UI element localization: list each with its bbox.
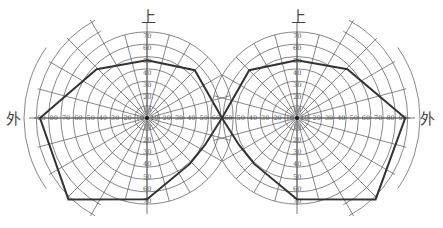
tick-label: 10 xyxy=(293,123,301,131)
tick-label: 60 xyxy=(74,114,82,122)
tick-label: 30 xyxy=(293,81,301,89)
tick-label: 50 xyxy=(350,114,358,122)
meridian xyxy=(236,120,295,179)
tick-label: 30 xyxy=(175,114,183,122)
tick-label: 10 xyxy=(143,106,151,114)
meridian xyxy=(222,75,294,117)
tick-label: 30 xyxy=(111,114,119,122)
meridian xyxy=(222,120,294,162)
tick-label: 10 xyxy=(300,114,308,122)
meridian xyxy=(214,119,294,141)
meridian xyxy=(67,120,145,198)
tick-label: 20 xyxy=(293,136,301,144)
meridian xyxy=(299,38,377,116)
tick-label: 60 xyxy=(143,44,151,52)
tick-label: 30 xyxy=(143,148,151,156)
tick-label: 60 xyxy=(143,185,151,193)
tick-label: 40 xyxy=(143,69,151,77)
tick-label: 20 xyxy=(273,114,281,122)
tick-label: 20 xyxy=(143,93,151,101)
tick-label: 30 xyxy=(325,114,333,122)
tick-label: 80 xyxy=(386,114,394,122)
tick-label: 10 xyxy=(286,114,294,122)
tick-label: 60 xyxy=(293,44,301,52)
outer-label-left: 外 xyxy=(6,110,21,128)
left-eye-perimetry: 1010202030304040505060607070101020203030… xyxy=(24,20,233,216)
top-label-left: 上 xyxy=(141,8,156,26)
tick-label: 50 xyxy=(237,114,245,122)
tick-label: 10 xyxy=(136,114,144,122)
outer-label-right: 外 xyxy=(420,110,435,128)
fixation-point xyxy=(295,116,299,120)
meridian xyxy=(254,43,296,115)
meridian xyxy=(149,43,191,115)
tick-label: 10 xyxy=(150,114,158,122)
tick-label: 40 xyxy=(187,114,195,122)
tick-label: 80 xyxy=(50,114,58,122)
right-eye-perimetry: 1010202030304040505060607070101020203030… xyxy=(211,20,420,216)
tick-label: 60 xyxy=(293,185,301,193)
visual-field-chart: 1010202030304040505060607070101020203030… xyxy=(0,0,443,228)
tick-label: 70 xyxy=(374,114,382,122)
tick-label: 50 xyxy=(87,114,95,122)
tick-label: 40 xyxy=(293,160,301,168)
tick-label: 30 xyxy=(293,148,301,156)
meridian xyxy=(150,119,230,141)
tick-label: 50 xyxy=(143,173,151,181)
tick-label: 50 xyxy=(293,173,301,181)
tick-label: 20 xyxy=(313,114,321,122)
meridian xyxy=(299,120,377,198)
meridian xyxy=(150,75,222,117)
fixation-point xyxy=(145,116,149,120)
tick-label: 20 xyxy=(143,136,151,144)
tick-label: 20 xyxy=(163,114,171,122)
tick-label: 40 xyxy=(337,114,345,122)
tick-label: 20 xyxy=(293,93,301,101)
top-label-right: 上 xyxy=(291,8,306,26)
tick-label: 20 xyxy=(123,114,131,122)
tick-label: 10 xyxy=(143,123,151,131)
meridian xyxy=(149,120,208,179)
tick-label: 40 xyxy=(99,114,107,122)
tick-label: 40 xyxy=(143,160,151,168)
tick-label: 30 xyxy=(261,114,269,122)
tick-label: 70 xyxy=(62,114,70,122)
meridian xyxy=(150,120,222,162)
tick-label: 60 xyxy=(362,114,370,122)
tick-label: 10 xyxy=(293,106,301,114)
tick-label: 30 xyxy=(143,81,151,89)
tick-label: 70 xyxy=(293,32,301,40)
meridian xyxy=(67,38,145,116)
tick-label: 70 xyxy=(143,32,151,40)
tick-label: 40 xyxy=(293,69,301,77)
tick-label: 60 xyxy=(224,114,232,122)
tick-label: 50 xyxy=(200,114,208,122)
tick-label: 40 xyxy=(249,114,257,122)
